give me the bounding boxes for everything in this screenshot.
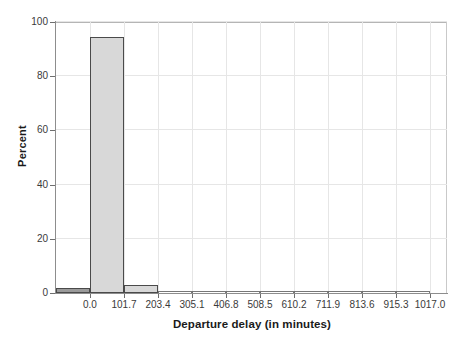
histogram-bar xyxy=(192,291,226,293)
histogram-bar xyxy=(226,291,260,293)
histogram-bar xyxy=(260,291,294,293)
x-tick-mark xyxy=(158,294,159,298)
gridline-y-100 xyxy=(56,21,447,22)
y-tick-label: 60 xyxy=(0,124,48,135)
histogram-bar xyxy=(56,288,90,293)
gridline-x-203.4 xyxy=(158,22,159,293)
plot-frame-right xyxy=(446,22,447,293)
gridline-x-915.3 xyxy=(396,22,397,293)
y-tick-label: 0 xyxy=(0,287,48,298)
y-tick-label: 80 xyxy=(0,70,48,81)
x-tick-mark xyxy=(260,294,261,298)
plot-frame-top xyxy=(56,22,447,23)
gridline-x-711.9 xyxy=(328,22,329,293)
x-tick-mark xyxy=(362,294,363,298)
histogram-bar xyxy=(396,291,430,293)
histogram-bar xyxy=(124,285,158,293)
plot-area xyxy=(56,22,447,293)
histogram-bar xyxy=(158,291,192,293)
y-tick-label: 20 xyxy=(0,233,48,244)
x-tick-mark xyxy=(90,294,91,298)
x-tick-mark xyxy=(192,294,193,298)
y-tick-mark xyxy=(50,130,55,131)
gridline-x-101.7 xyxy=(124,22,125,293)
y-tick-label: 100 xyxy=(0,16,48,27)
gridline-x-1017 xyxy=(430,22,431,293)
histogram-bar xyxy=(294,291,328,293)
x-tick-mark xyxy=(396,294,397,298)
histogram-bar xyxy=(328,291,362,293)
y-tick-mark xyxy=(50,22,55,23)
x-tick-mark xyxy=(226,294,227,298)
x-axis-title: Departure delay (in minutes) xyxy=(56,318,448,330)
x-tick-mark xyxy=(328,294,329,298)
gridline-x-610.2 xyxy=(294,22,295,293)
y-axis-title: Percent xyxy=(16,106,28,186)
histogram-bar xyxy=(362,291,396,293)
y-tick-mark xyxy=(50,293,55,294)
gridline-x-305.1 xyxy=(192,22,193,293)
x-tick-mark xyxy=(294,294,295,298)
gridline-x-813.6 xyxy=(362,22,363,293)
y-tick-mark xyxy=(50,76,55,77)
histogram-bar xyxy=(90,37,124,293)
x-axis-line xyxy=(55,293,448,294)
x-tick-mark xyxy=(430,294,431,298)
gridline-x-508.5 xyxy=(260,22,261,293)
histogram-figure: Percent Departure delay (in minutes) 020… xyxy=(0,0,461,347)
y-tick-mark xyxy=(50,185,55,186)
gridline-x-406.8 xyxy=(226,22,227,293)
x-tick-label: 1017.0 xyxy=(400,299,460,310)
x-tick-mark xyxy=(124,294,125,298)
y-tick-mark xyxy=(50,239,55,240)
y-tick-label: 40 xyxy=(0,179,48,190)
